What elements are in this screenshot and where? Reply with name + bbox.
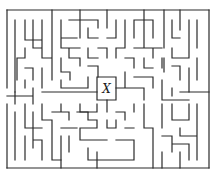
center-marker-label: X bbox=[101, 82, 111, 96]
maze-wall bbox=[15, 10, 98, 92]
maze-wall bbox=[61, 100, 153, 168]
maze-wall bbox=[164, 10, 197, 92]
maze-diagram: X bbox=[0, 0, 217, 176]
maze-wall bbox=[88, 10, 162, 77]
maze-wall bbox=[162, 104, 197, 168]
